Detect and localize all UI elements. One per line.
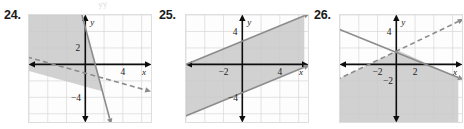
graph-26[interactable]: 4−22−2xy <box>339 14 463 123</box>
svg-text:4: 4 <box>387 27 392 37</box>
graph-25[interactable]: 4−24−4xy <box>185 14 309 123</box>
svg-text:−2: −2 <box>383 76 393 86</box>
svg-text:x: x <box>452 67 457 77</box>
problem-24: 24. 24−4xy <box>0 0 155 129</box>
svg-text:y: y <box>89 17 94 27</box>
shaded-region <box>186 16 304 117</box>
svg-text:4: 4 <box>120 67 125 77</box>
graph-24-canvas: 24−4xy <box>29 15 151 122</box>
problem-25: 25. 4−24−4xy <box>155 0 310 129</box>
svg-text:2: 2 <box>413 67 418 77</box>
svg-text:−4: −4 <box>71 93 81 103</box>
graph-26-canvas: 4−22−2xy <box>340 15 462 122</box>
worksheet-page: yy 24. 24−4xy 25. 4−24−4xy 26. 4−22−2xy <box>0 0 464 129</box>
svg-text:y: y <box>246 17 251 27</box>
svg-text:−2: −2 <box>218 67 228 77</box>
svg-text:4: 4 <box>277 67 282 77</box>
svg-text:2: 2 <box>75 43 80 53</box>
svg-text:4: 4 <box>233 27 238 37</box>
problem-number-26: 26. <box>314 8 331 22</box>
svg-text:x: x <box>298 67 303 77</box>
svg-text:−4: −4 <box>228 93 238 103</box>
problem-26: 26. 4−22−2xy <box>310 0 464 129</box>
shaded-region <box>340 50 458 122</box>
svg-text:−2: −2 <box>372 67 382 77</box>
graph-24[interactable]: 24−4xy <box>28 14 152 123</box>
svg-text:y: y <box>400 17 405 27</box>
problem-number-24: 24. <box>4 8 21 22</box>
problem-number-25: 25. <box>159 8 176 22</box>
graph-25-canvas: 4−24−4xy <box>186 15 308 122</box>
svg-text:x: x <box>141 67 146 77</box>
